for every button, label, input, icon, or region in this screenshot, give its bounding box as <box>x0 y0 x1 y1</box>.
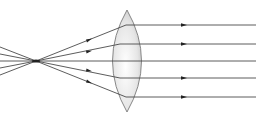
arrow-icon <box>181 42 187 45</box>
focal-point-marker <box>32 59 40 62</box>
diverging-rays <box>36 25 256 97</box>
arrow-icon <box>181 95 187 98</box>
incoming-rays <box>0 47 36 75</box>
arrow-icon <box>86 39 92 43</box>
arrow-icon <box>181 23 187 26</box>
arrow-icon <box>86 51 92 54</box>
arrow-icon <box>181 76 187 79</box>
lens-ray-diagram <box>0 0 256 114</box>
arrow-icon <box>86 80 92 84</box>
arrow-icon <box>86 69 92 72</box>
